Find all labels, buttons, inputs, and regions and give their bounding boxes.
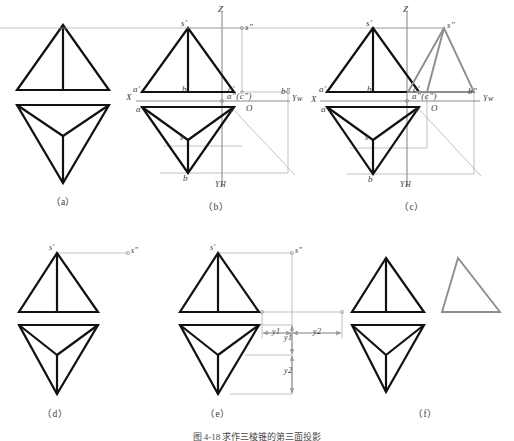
panel-b-axis-yh-label: YH: [215, 180, 226, 189]
panel-e-dim-y1-vertical-label: y1: [284, 333, 293, 342]
panel-e-front-view: [180, 253, 259, 312]
panel-e-dim-y2-label: y2: [313, 327, 322, 336]
panel-b-top-view: [142, 107, 234, 173]
panel-d-caption: （d）: [42, 406, 68, 420]
panel-c-b-side-label: b": [468, 86, 477, 96]
figure-title-caption: 图 4-18 求作三棱锥的第三面投影: [0, 430, 514, 441]
panel-e-s-side-label: s": [295, 246, 302, 255]
top-edge-c-s: [63, 105, 109, 136]
top-edge-a-s: [17, 105, 63, 136]
front-triangle-outline: [180, 253, 259, 312]
top-edge-a-s: [19, 325, 57, 355]
bisector-45-line: [417, 107, 481, 176]
panel-b-s-top-label: s: [180, 133, 184, 142]
panel-c-s-top-label: s: [365, 133, 369, 142]
panel-c-axis-x-label: X: [311, 94, 317, 104]
engineering-drawing-canvas: （a）: [0, 0, 514, 441]
panel-a-caption: （a）: [51, 196, 75, 207]
panel-b-front-view: [142, 28, 234, 92]
panel-c-b-front-label: b': [367, 84, 374, 94]
panel-b-b-side-label: b": [281, 86, 290, 96]
panel-a: [17, 25, 109, 183]
panel-b-a-front-label: a': [133, 84, 140, 94]
panel-e-caption: （e）: [205, 406, 231, 420]
panel-d-s-side-label: s": [131, 246, 138, 255]
panel-e-top-view: [180, 325, 259, 394]
panel-c-axis-yh-label: YH: [400, 180, 411, 189]
panel-e-dim-y2-vertical-label: y2: [284, 366, 293, 375]
top-edge-c-s: [218, 325, 259, 355]
panel-c-front-view: [327, 28, 419, 92]
panel-b-axis-z-label: Z: [218, 4, 224, 14]
top-edge-a-s: [352, 325, 386, 355]
bisector-45-line: [231, 107, 295, 175]
panel-f-caption: （f）: [413, 406, 438, 420]
panel-a-front-view: [17, 25, 109, 90]
panel-a-top-view: [17, 105, 109, 183]
panel-c-axes: [320, 12, 480, 187]
panel-c-a-top-label: a: [321, 104, 326, 114]
panel-c-side-view-new: [408, 28, 474, 92]
panel-b-axis-x-label: X: [126, 92, 132, 102]
panel-b-ac-side-label: a"(c"): [227, 91, 252, 101]
panel-b-a-top-label: a: [136, 104, 141, 114]
panel-e-s-front-label: s': [210, 243, 216, 252]
panel-b: [136, 12, 295, 187]
panel-d-top-view: [19, 325, 98, 394]
panel-c-construction-lines: [0, 28, 481, 176]
panel-b-c-top-label: c: [230, 104, 235, 114]
panel-c-a-front-label: a': [319, 84, 326, 94]
panel-c-caption: （c）: [399, 199, 425, 213]
panel-c-c-top-label: c: [415, 104, 420, 114]
panel-f-top-view: [352, 325, 424, 392]
panel-c-top-view: [327, 107, 419, 174]
panel-c-axis-z-label: Z: [403, 4, 409, 14]
panel-b-b-top-label: b: [183, 173, 188, 183]
panel-c-s-side-label: s": [447, 20, 455, 30]
panel-b-s-front-label: s': [181, 18, 187, 28]
panel-b-axis-yw-label: Yw: [292, 94, 303, 103]
panel-b-s-side-label: s": [245, 22, 253, 32]
panel-c-axis-yw-label: Yw: [483, 94, 494, 103]
panel-e-dim-y1-label: y1: [272, 327, 281, 336]
panel-f-front-view: [352, 258, 424, 312]
panel-f: [352, 258, 500, 392]
panel-b-caption: （b）: [203, 199, 229, 213]
panel-d: [19, 251, 130, 394]
top-edge-c-s: [386, 325, 424, 355]
panel-b-origin-label: O: [246, 103, 253, 113]
panel-e: [180, 251, 344, 394]
panel-b-axes: [136, 12, 290, 187]
panel-c-origin-label: O: [431, 103, 438, 113]
top-edge-c-s: [57, 325, 98, 355]
side-triangle-outline: [442, 258, 500, 312]
front-triangle-outline: [352, 258, 424, 312]
top-edge-a-s: [180, 325, 218, 355]
panel-c-ac-side-label: a"(c"): [412, 91, 437, 101]
top-edge-c-s: [188, 107, 234, 140]
panel-d-front-view: [19, 253, 98, 312]
side-edge-s-ac: [427, 28, 444, 92]
top-edge-c-s: [373, 107, 419, 140]
panel-b-b-front-label: b': [182, 84, 189, 94]
panel-f-side-view: [442, 258, 500, 312]
panel-d-s-front-label: s': [49, 243, 55, 252]
front-triangle-outline: [19, 253, 98, 312]
panel-c-s-front-label: s': [366, 18, 372, 28]
figure-sheet: （a）: [0, 0, 514, 441]
panel-c-b-top-label: b: [368, 174, 373, 184]
panel-e-construction-lines: [218, 253, 342, 394]
